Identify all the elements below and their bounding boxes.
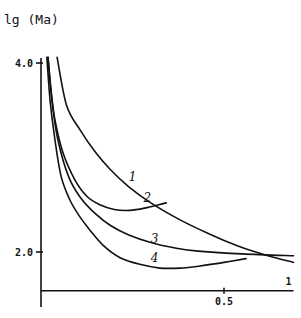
y-tick-label: 2.0 (15, 247, 33, 258)
curve-label-4: 4 (150, 251, 159, 265)
y-tick-label: 4.0 (15, 58, 33, 69)
curve-label-2: 2 (142, 191, 151, 205)
curve-1 (57, 57, 293, 262)
x-tick-label: 0.5 (215, 296, 233, 307)
curve-labels: 1234 (129, 170, 159, 265)
axes: 1 (41, 58, 294, 307)
curve-label-1: 1 (129, 170, 137, 184)
curves (47, 57, 294, 268)
chart: lg (Ma) 1 4.02.00.5 1234 (0, 0, 301, 318)
x-axis-end-label: 1 (286, 276, 292, 287)
curve-3 (48, 57, 294, 256)
curve-2 (48, 57, 166, 210)
curve-label-3: 3 (151, 232, 159, 246)
y-axis-title: lg (Ma) (4, 12, 59, 27)
